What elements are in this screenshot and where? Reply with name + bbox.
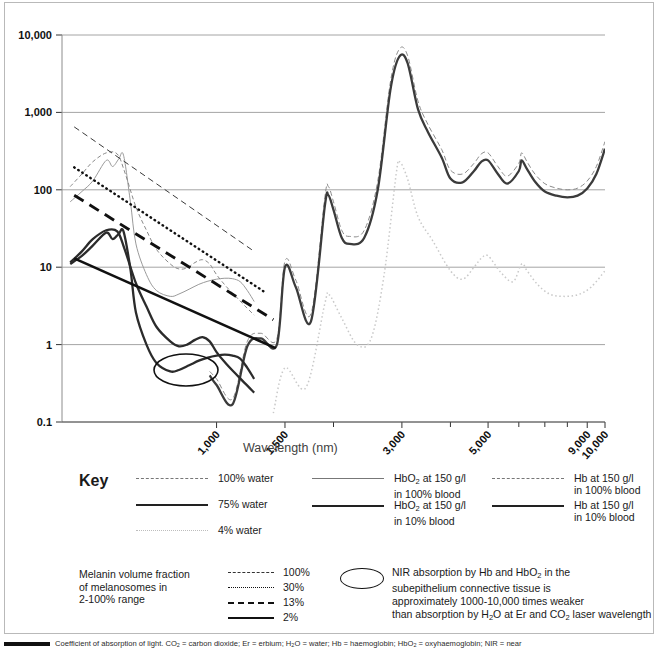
- legend-label: 100% water: [218, 472, 273, 484]
- ellipse-icon: [340, 568, 384, 589]
- melanin-title-line3: 2-100% range: [79, 593, 229, 606]
- nir-note: NIR absorption by Hb and HbO2 in the sub…: [392, 566, 654, 625]
- swatch-thick-solid: [312, 505, 384, 507]
- chart-svg: 10,0001,0001001010.1 1,0001,5003,0005,00…: [0, 0, 658, 460]
- svg-text:10: 10: [40, 261, 52, 273]
- legend-label-line2: in 10% blood: [394, 515, 455, 527]
- legend-title: Key: [79, 472, 108, 490]
- swatch-thick-solid: [492, 505, 564, 507]
- legend-label: 4% water: [218, 524, 262, 536]
- svg-text:1: 1: [46, 339, 52, 351]
- figure-root: 10,0001,0001001010.1 1,0001,5003,0005,00…: [0, 0, 658, 651]
- swatch-mel-solid: [228, 617, 274, 619]
- legend-label: 30%: [283, 581, 304, 593]
- melanin-title-line2: of melanosomes in: [79, 581, 229, 594]
- swatch-thin-dashed: [492, 478, 564, 479]
- swatch-mel-thindash: [228, 572, 274, 573]
- svg-text:0.1: 0.1: [37, 416, 52, 428]
- legend-label: 100%: [283, 566, 310, 578]
- data-series: [70, 47, 605, 413]
- y-axis-ticks: 10,0001,0001001010.1: [18, 29, 62, 428]
- legend-label-line2: in 10% blood: [574, 511, 635, 523]
- swatch-mel-dashed: [228, 602, 274, 604]
- chart-area: 10,0001,0001001010.1 1,0001,5003,0005,00…: [0, 0, 658, 460]
- melanin-title-line1: Melanin volume fraction: [79, 568, 229, 581]
- nir-note-line2: subepithelium connective tissue is: [392, 582, 654, 595]
- svg-text:3,000: 3,000: [380, 428, 407, 456]
- legend-label-line1: Hb at 150 g/l: [574, 472, 634, 484]
- legend-label: 13%: [283, 596, 304, 608]
- svg-text:1,000: 1,000: [24, 106, 52, 118]
- svg-text:5,000: 5,000: [466, 428, 493, 456]
- legend-label: 2%: [283, 611, 298, 623]
- legend: Key 100% water 75% water 4% water HbO2 a…: [0, 462, 658, 622]
- nir-note-line3: approximately 1000-10,000 times weaker: [392, 595, 654, 608]
- swatch-mel-dotted: [228, 587, 274, 588]
- legend-label: Hb at 150 g/l in 10% blood: [574, 499, 635, 524]
- svg-text:1,000: 1,000: [195, 428, 222, 456]
- figure-caption: Coefficient of absorption of light. CO2 …: [4, 639, 654, 650]
- caption-bar-icon: [4, 642, 50, 646]
- legend-label: HbO2 at 150 g/l in 100% blood: [394, 472, 466, 501]
- swatch-thin-dashed: [136, 478, 208, 479]
- legend-label-line2: in 100% blood: [574, 484, 641, 496]
- legend-label-line1: HbO2 at 150 g/l: [394, 499, 466, 511]
- nir-note-line4: than absorption by H2O at Er and CO2 las…: [392, 608, 654, 624]
- swatch-dotted-light: [136, 530, 208, 531]
- legend-label-line1: HbO2 at 150 g/l: [394, 472, 466, 484]
- nir-annotation-ellipse: [154, 354, 218, 386]
- melanin-legend-title: Melanin volume fraction of melanosomes i…: [79, 568, 229, 606]
- nir-note-line1: NIR absorption by Hb and HbO2 in the: [392, 566, 654, 582]
- svg-text:100: 100: [34, 184, 52, 196]
- legend-label: HbO2 at 150 g/l in 10% blood: [394, 499, 466, 528]
- swatch-thin-solid: [312, 478, 384, 479]
- swatch-thick-solid: [136, 504, 208, 506]
- legend-label-line1: Hb at 150 g/l: [574, 499, 634, 511]
- gridlines: [62, 35, 605, 422]
- x-axis-label: Wavelength (nm): [243, 441, 338, 455]
- legend-label: 75% water: [218, 498, 268, 510]
- legend-label: Hb at 150 g/l in 100% blood: [574, 472, 641, 497]
- svg-text:10,000: 10,000: [18, 29, 52, 41]
- caption-text: Coefficient of absorption of light. CO2 …: [55, 639, 522, 648]
